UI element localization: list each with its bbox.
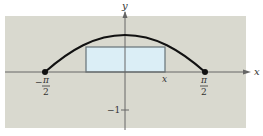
y-axis-label: y — [121, 0, 128, 11]
left-tick-numerator: π — [42, 75, 50, 85]
y-axis-arrow-icon — [123, 11, 128, 18]
rect-corner-x-label: x — [162, 74, 167, 84]
left-tick-sign: − — [35, 77, 43, 87]
right-tick-numerator: π — [200, 75, 208, 85]
right-tick-denominator: 2 — [201, 87, 207, 97]
y-minus-one-label: −1 — [107, 105, 120, 115]
left-tick-denominator: 2 — [43, 87, 49, 97]
x-axis-arrow-icon — [243, 70, 251, 75]
x-axis-label: x — [254, 66, 260, 77]
cosine-rectangle-diagram: y x x − π 2 π 2 −1 — [0, 0, 263, 136]
